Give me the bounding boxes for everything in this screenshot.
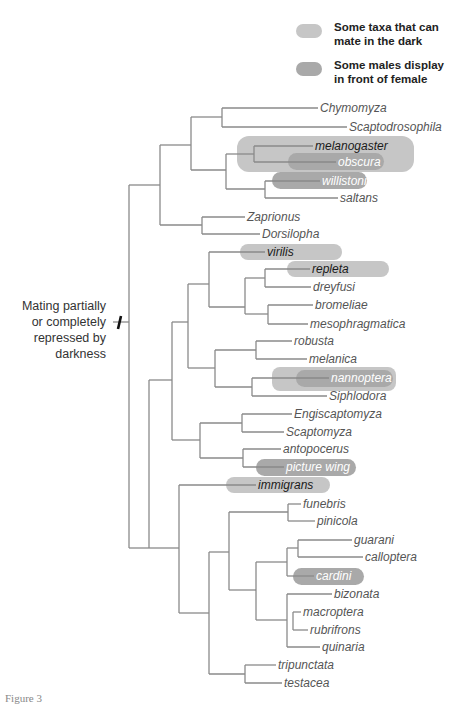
taxon-label-siphlodora: Siphlodora (329, 389, 387, 403)
taxon-label-macroptera: macroptera (303, 605, 364, 619)
taxon-label-dreyfusi: dreyfusi (313, 280, 355, 294)
taxon-label-tripunctata: tripunctata (278, 658, 334, 672)
figure-caption-label: Figure 3 (5, 692, 42, 704)
taxon-label-pinicola: pinicola (316, 514, 358, 528)
annotation-line: repressed by (10, 330, 106, 346)
taxon-label-cardini: cardini (316, 569, 352, 583)
taxon-label-scaptodrosophila: Scaptodrosophila (349, 120, 442, 134)
taxon-label-funebris: funebris (303, 497, 346, 511)
annotation-line: Mating partially (10, 298, 106, 314)
taxon-label-antopocerus: antopocerus (283, 442, 349, 456)
taxon-label-calloptera: calloptera (365, 550, 417, 564)
taxon-label-engiscaptomyza: Engiscaptomyza (294, 407, 382, 421)
taxon-label-testacea: testacea (284, 676, 330, 690)
legend: Some taxa that can mate in the dark Some… (296, 20, 466, 96)
legend-text-line: Some taxa that can (334, 20, 464, 34)
taxon-label-bizonata: bizonata (334, 587, 380, 601)
legend-text-line: Some males display (334, 58, 464, 72)
taxon-label-obscura: obscura (338, 155, 381, 169)
taxon-label-rubrifrons: rubrifrons (310, 623, 361, 637)
darkness-annotation: Mating partially or completely repressed… (10, 298, 106, 362)
taxon-label-melanogaster: melanogaster (315, 139, 389, 153)
taxon-label-willistoni: willistoni (322, 174, 367, 188)
taxon-label-dorsilopha: Dorsilopha (262, 227, 320, 241)
legend-item-dark-mating: Some taxa that can mate in the dark (296, 20, 466, 58)
taxon-label-robusta: robusta (294, 334, 334, 348)
legend-text-line: mate in the dark (334, 34, 464, 48)
taxon-label-nannoptera: nannoptera (331, 371, 392, 385)
taxon-label-scaptomyza: Scaptomyza (286, 425, 352, 439)
light-gray-swatch-icon (296, 24, 322, 38)
tree-branches (129, 108, 363, 683)
taxon-label-quinaria: quinaria (322, 640, 365, 654)
taxon-label-immigrans: immigrans (258, 478, 313, 492)
taxon-label-virilis: virilis (267, 245, 294, 259)
taxon-label-bromeliae: bromeliae (315, 298, 368, 312)
annotation-line: or completely (10, 314, 106, 330)
dark-gray-swatch-icon (296, 62, 322, 76)
taxon-label-chymomyza: Chymomyza (320, 101, 387, 115)
taxon-label-zaprionus: Zaprionus (246, 210, 300, 224)
taxon-label-melanica: melanica (309, 352, 357, 366)
legend-text-line: in front of female (334, 72, 464, 86)
taxon-label-guarani: guarani (354, 533, 394, 547)
taxon-label-saltans: saltans (340, 191, 378, 205)
taxon-label-picture-wing: picture wing (285, 460, 350, 474)
taxon-label-repleta: repleta (312, 262, 349, 276)
taxon-label-mesophragmatica: mesophragmatica (310, 317, 406, 331)
darkness-bar-icon (118, 316, 121, 329)
annotation-line: darkness (10, 346, 106, 362)
legend-item-male-display: Some males display in front of female (296, 58, 466, 96)
phylogeny-figure: ChymomyzaScaptodrosophilamelanogasterobs… (0, 0, 469, 709)
